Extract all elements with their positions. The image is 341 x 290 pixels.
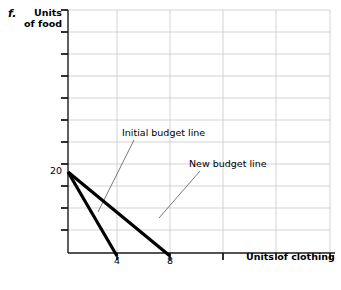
annotation-new-budget-line: New budget line [189, 159, 267, 170]
chart-canvas [0, 0, 341, 290]
budget-line-new [68, 172, 170, 256]
x-axis-title: Units of clothing [246, 252, 335, 263]
x-axis-tick-label-8: 8 [162, 256, 178, 267]
x-axis-tick-label-4: 4 [109, 256, 125, 267]
budget-line-figure: f. Units of food Units of clothing 20 4 … [0, 0, 341, 290]
budget-line-initial [68, 172, 117, 256]
y-axis [61, 10, 68, 253]
grid-horizontal-lines [68, 10, 330, 230]
y-axis-tick-label-20: 20 [40, 166, 62, 177]
y-axis-title: Units of food [22, 8, 62, 30]
annotation-initial-budget-line: Initial budget line [122, 128, 205, 139]
part-letter: f. [8, 8, 16, 21]
leader-line-new [159, 171, 200, 218]
